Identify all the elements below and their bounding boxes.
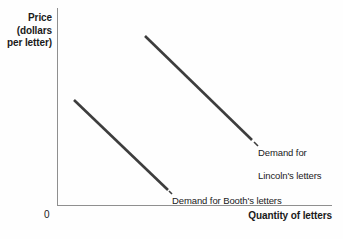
- curve-label-booth-line-1: Demand for Booth's letters: [172, 195, 282, 207]
- curve-label-lincoln-line-2: Lincoln's letters: [258, 170, 321, 182]
- demand-curve-booth: [74, 100, 168, 190]
- demand-curve-lincoln: [145, 36, 252, 140]
- demand-curve-chart: Price (dollars per letter) Quantity of l…: [0, 0, 343, 239]
- curve-label-lincoln-line-1: Demand for: [258, 147, 321, 159]
- curve-label-booth: Demand for Booth's letters: [172, 183, 282, 218]
